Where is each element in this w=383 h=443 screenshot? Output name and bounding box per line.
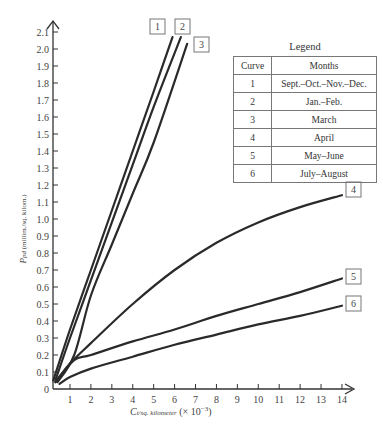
y-tick-label: 0.2 [37,350,50,361]
curve-6 [60,306,342,384]
legend-curve: 6 [234,165,272,183]
curve-label-6: 6 [351,298,356,309]
y-tick-label: 1.4 [37,146,50,157]
y-tick-label: 0.7 [37,265,50,276]
legend-row: 4April [234,129,377,147]
y-tick-label: 0.1 [37,367,50,378]
curve-2 [55,37,181,380]
legend-row: 6July–August [234,165,377,183]
legend-curve: 4 [234,129,272,147]
legend-table: Legend Curve Months 1Sept.–Oct.–Nov.–Dec… [233,38,377,183]
legend-row: 1Sept.–Oct.–Nov.–Dec. [234,75,377,93]
x-tick-label: 9 [235,394,240,405]
x-tick-label: 13 [316,394,326,405]
x-tick-label: 8 [214,394,219,405]
x-axis-label: Ct/sq. kilometer (× 10−3) [130,405,212,417]
y-tick-label: 2.1 [37,27,50,38]
y-tick-label: 1.9 [37,61,50,72]
legend-row: 5May–June [234,147,377,165]
legend-header-curve: Curve [234,57,272,75]
x-tick-label: 14 [337,394,347,405]
y-tick-label: 0.3 [37,333,50,344]
legend-curve: 3 [234,111,272,129]
y-tick-label: 0.9 [37,231,50,242]
curve-4 [55,195,342,382]
y-label-main: P [18,258,28,264]
x-tick-label: 3 [109,394,114,405]
legend-months: March [272,111,377,129]
y-tick-label: 1.1 [37,197,50,208]
legend-months: May–June [272,147,377,165]
legend-months: Sept.–Oct.–Nov.–Dec. [272,75,377,93]
y-tick-label: 2.0 [37,44,50,55]
legend-title: Legend [233,38,377,56]
x-tick-label: 4 [130,394,135,405]
y-axis-label: Ppd (millim./sq. kilom.) [18,164,28,294]
x-tick-label: 5 [151,394,156,405]
curve-label-2: 2 [180,21,185,32]
legend-grid: Curve Months 1Sept.–Oct.–Nov.–Dec. 2Jan.… [233,56,377,183]
curve-label-1: 1 [155,21,160,32]
x-tick-label: 11 [274,394,284,405]
legend-curve: 1 [234,75,272,93]
curve-label-5: 5 [351,271,356,282]
legend-months: April [272,129,377,147]
y-tick-label: 1.5 [37,129,50,140]
y-tick-label: 1.3 [37,163,50,174]
y-label-units: (millim./sq. kilom.) [20,194,28,251]
y-tick-label: 1.2 [37,180,50,191]
y-label-sub: pd [20,251,28,258]
y-tick-label: 0 [44,384,49,395]
y-tick-label: 0.8 [37,248,50,259]
y-tick-label: 0.4 [37,316,50,327]
y-tick-label: 1.6 [37,112,50,123]
legend-header-row: Curve Months [234,57,377,75]
legend-months: July–August [272,165,377,183]
y-tick-label: 1.7 [37,95,50,106]
legend-row: 2Jan.–Feb. [234,93,377,111]
x-label-close: ) [208,406,211,417]
x-label-units: (× 10 [177,406,201,417]
curve-1 [53,37,172,380]
legend-row: 3March [234,111,377,129]
x-label-main: C [130,406,137,417]
y-tick-label: 1.0 [37,214,50,225]
x-tick-label: 10 [253,394,263,405]
y-tick-label: 0.5 [37,299,50,310]
x-label-sub: t/sq. kilometer [137,409,177,417]
curve-label-3: 3 [199,39,204,50]
x-tick-label: 12 [295,394,305,405]
curve-label-4: 4 [351,184,356,195]
x-tick-label: 1 [68,394,73,405]
legend-months: Jan.–Feb. [272,93,377,111]
x-tick-label: 6 [172,394,177,405]
x-tick-label: 7 [193,394,198,405]
x-tick-label: 2 [88,394,93,405]
y-tick-label: 1.8 [37,78,50,89]
y-tick-label: 0.6 [37,282,50,293]
legend-header-months: Months [272,57,377,75]
legend-curve: 2 [234,93,272,111]
legend-curve: 5 [234,147,272,165]
